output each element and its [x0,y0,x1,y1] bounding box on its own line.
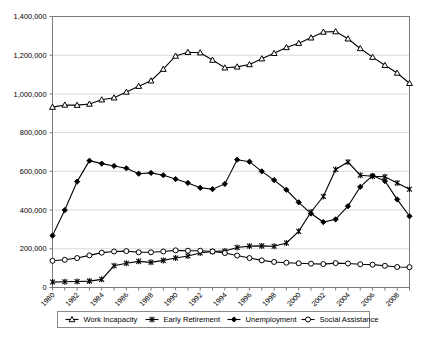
x-axis-ticks: 1980198219841986198819901992199419961998… [39,288,410,309]
data-point-marker [382,62,388,67]
series-unemployment [50,157,412,238]
data-point-marker [382,263,387,268]
chart-legend: Work IncapacityEarly RetirementUnemploym… [58,312,379,328]
data-point-marker [370,262,375,267]
x-axis-tick-label: 1984 [88,291,106,309]
data-point-marker [259,258,264,263]
data-point-marker [210,249,215,254]
data-point-marker [185,248,190,253]
data-point-marker [75,256,80,261]
data-point-marker [124,249,129,254]
data-point-marker [75,179,80,184]
data-point-marker [87,158,92,163]
data-point-marker [198,185,203,190]
data-point-marker [210,187,215,192]
x-axis-tick-label: 1988 [137,291,155,309]
data-point-marker [99,161,104,166]
data-point-marker [148,250,153,255]
x-axis-tick-label: 2004 [334,291,352,309]
data-point-marker [87,253,92,258]
line-chart: 0200,000400,000600,000800,0001,000,0001,… [0,0,425,344]
legend-label: Early Retirement [164,315,221,324]
data-point-marker [99,250,104,255]
data-point-marker [161,173,166,178]
series-social-assistance [50,248,412,270]
data-point-marker [309,261,314,266]
data-point-marker [407,265,412,270]
data-point-marker [185,180,190,185]
series-line [53,32,410,107]
data-point-marker [395,180,400,186]
y-axis-tick-label: 600,000 [20,167,47,176]
y-axis-tick-label: 1,200,000 [14,51,47,60]
data-point-marker [222,181,227,186]
data-point-marker [394,70,400,75]
data-point-marker [321,194,326,200]
data-point-marker [345,36,351,41]
y-axis-tick-label: 0 [42,283,46,292]
data-point-marker [333,166,338,172]
data-point-marker [198,248,203,253]
data-point-marker [346,159,351,165]
data-point-marker [345,261,350,266]
x-axis-tick-label: 1994 [211,291,229,309]
x-axis-tick-label: 1990 [162,291,180,309]
data-point-marker [358,262,363,267]
series-early-retirement [50,159,412,285]
data-point-marker [62,257,67,262]
data-point-marker [50,233,55,238]
data-point-marker [235,157,240,162]
data-point-marker [111,163,116,168]
chart-container: 0200,000400,000600,000800,0001,000,0001,… [0,0,425,344]
series-line [53,250,410,267]
y-axis-tick-label: 200,000 [20,244,47,253]
data-point-marker [321,262,326,267]
data-point-marker [395,264,400,269]
data-point-marker [173,177,178,182]
legend-label: Unemployment [246,315,298,324]
plot-area-border [53,17,410,288]
x-axis-tick-label: 1998 [260,291,278,309]
x-axis-tick-label: 2006 [359,291,377,309]
x-axis-tick-label: 2000 [285,291,303,309]
data-point-marker [112,249,117,254]
data-series-group [50,29,413,285]
x-axis-tick-label: 2002 [310,291,328,309]
x-axis-tick-label: 1996 [236,291,254,309]
data-point-marker [247,256,252,261]
data-point-marker [333,261,338,266]
data-point-marker [296,228,301,234]
data-point-marker [272,259,277,264]
data-point-marker [136,250,141,255]
data-point-marker [161,249,166,254]
x-axis-tick-label: 1992 [186,291,204,309]
data-point-marker [407,186,412,192]
data-point-marker [173,248,178,253]
data-point-marker [210,57,216,62]
y-axis-tick-label: 1,400,000 [14,12,47,21]
data-point-marker [296,261,301,266]
data-point-marker [235,253,240,258]
data-point-marker [50,258,55,263]
legend-label: Work Incapacity [84,315,138,324]
series-work-incapacity [50,29,413,110]
data-point-marker [284,260,289,265]
data-point-marker [124,166,129,171]
x-axis-tick-label: 2008 [383,291,401,309]
gridlines [53,55,410,249]
data-point-marker [306,317,311,322]
y-axis-tick-label: 400,000 [20,206,47,215]
x-axis-tick-label: 1980 [39,291,57,309]
x-axis-tick-label: 1986 [113,291,131,309]
data-point-marker [136,171,141,176]
y-axis-ticks: 0200,000400,000600,000800,0001,000,0001,… [14,12,53,292]
y-axis-tick-label: 800,000 [20,128,47,137]
legend-label: Social Assistance [320,315,379,324]
data-point-marker [222,251,227,256]
data-point-marker [62,207,67,212]
y-axis-tick-label: 1,000,000 [14,90,47,99]
x-axis-tick-label: 1982 [63,291,81,309]
